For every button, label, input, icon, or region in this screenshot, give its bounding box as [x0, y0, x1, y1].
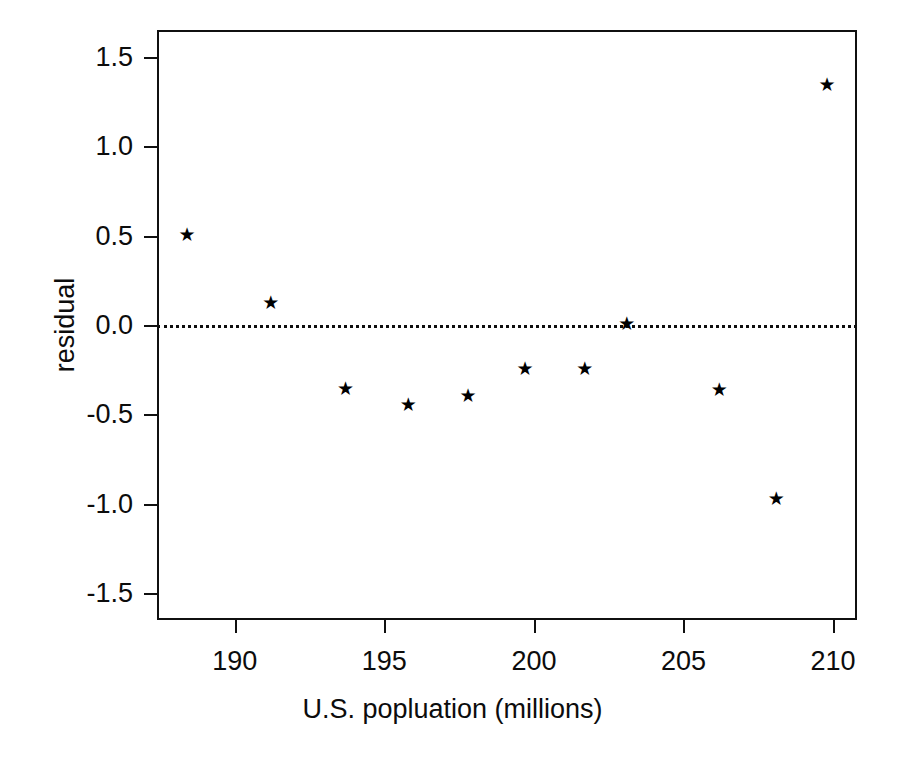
y-axis-tick-label: -0.5: [86, 399, 133, 430]
y-axis-tick-label: 1.0: [95, 131, 133, 162]
x-axis-tick-label: 190: [212, 646, 257, 677]
y-axis-tick-label: 0.5: [95, 220, 133, 251]
x-axis-tick: [235, 620, 237, 633]
y-axis-tick: [144, 414, 157, 416]
x-axis-tick-label: 210: [811, 646, 856, 677]
y-axis-tick-label: 0.0: [95, 310, 133, 341]
y-axis-tick-label: -1.0: [86, 488, 133, 519]
y-axis-title: residual: [50, 278, 81, 373]
y-axis-tick: [144, 325, 157, 327]
y-axis-tick: [144, 146, 157, 148]
x-axis-tick-label: 195: [362, 646, 407, 677]
x-axis-tick: [833, 620, 835, 633]
x-axis-title: U.S. popluation (millions): [0, 694, 905, 725]
y-axis-tick-label: -1.5: [86, 578, 133, 609]
y-axis-tick: [144, 593, 157, 595]
plot-frame-border: [157, 30, 857, 620]
y-axis-tick: [144, 504, 157, 506]
y-axis-tick: [144, 57, 157, 59]
x-axis-tick: [534, 620, 536, 633]
x-axis-tick: [683, 620, 685, 633]
y-axis-tick: [144, 236, 157, 238]
residual-plot-figure: ★★★★★★★★★★★ 1.51.00.50.0-0.5-1.0-1.5 190…: [0, 0, 905, 762]
y-axis-tick-label: 1.5: [95, 41, 133, 72]
x-axis-tick: [384, 620, 386, 633]
x-axis-tick-label: 205: [661, 646, 706, 677]
x-axis-tick-label: 200: [511, 646, 556, 677]
